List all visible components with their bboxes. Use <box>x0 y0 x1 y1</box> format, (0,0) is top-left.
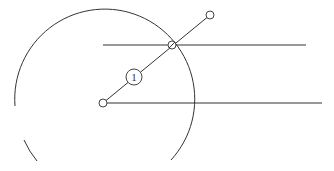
label-node-text: 1 <box>131 71 137 83</box>
center-node <box>99 99 107 107</box>
circle-arc-main <box>15 9 195 160</box>
circle-arc-segment <box>24 140 37 161</box>
end-node <box>206 11 214 19</box>
geometry-diagram: 1 <box>0 0 334 171</box>
